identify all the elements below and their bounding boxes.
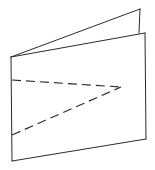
figure-canvas <box>0 0 155 170</box>
folded-sheet-diagram <box>0 0 155 170</box>
